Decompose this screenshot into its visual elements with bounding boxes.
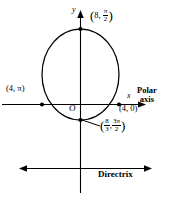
point-marker-left xyxy=(40,102,44,106)
polar-axis-label-line2: axis xyxy=(137,95,157,104)
x-axis-label: x xyxy=(127,92,131,100)
fraction-theta-bottom-vertex: 3π2 xyxy=(112,118,121,134)
point-label-top-vertex: (8, π2) xyxy=(90,8,113,24)
polar-conic-figure: y x O (8, π2) (4, π) (4, 0) (83,3π2) Pol… xyxy=(0,0,169,197)
point-label-right: (4, 0) xyxy=(119,104,137,113)
directrix-right-arrowhead-icon xyxy=(144,165,152,171)
fraction-theta-top-vertex: π2 xyxy=(103,8,109,24)
point-label-bottom-vertex: (83,3π2) xyxy=(100,118,125,134)
paren-close: ) xyxy=(135,103,138,113)
y-axis-arrowhead-icon xyxy=(77,10,83,18)
paren-close: ) xyxy=(121,118,125,133)
bottom-point-leader-line xyxy=(82,120,100,126)
y-axis-label: y xyxy=(72,6,76,14)
polar-axis-label: Polar axis xyxy=(137,86,157,104)
point-label-left: (4, π) xyxy=(6,84,24,93)
point-marker-top-vertex xyxy=(78,27,82,31)
point-marker-bottom-vertex xyxy=(78,118,82,122)
paren-close: ) xyxy=(22,83,25,93)
directrix-label: Directrix xyxy=(98,170,133,179)
origin-label: O xyxy=(69,104,76,113)
directrix-left-arrowhead-icon xyxy=(19,165,27,171)
fraction-r-bottom-vertex: 83 xyxy=(104,118,110,134)
paren-close: ) xyxy=(108,8,112,23)
